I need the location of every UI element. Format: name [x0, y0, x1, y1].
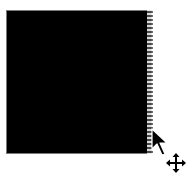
- move-cursor-icon: [150, 127, 190, 173]
- black-rectangle-shape[interactable]: [6, 10, 152, 154]
- move-arrows-icon: [166, 153, 186, 173]
- arrow-pointer-icon: [152, 129, 167, 155]
